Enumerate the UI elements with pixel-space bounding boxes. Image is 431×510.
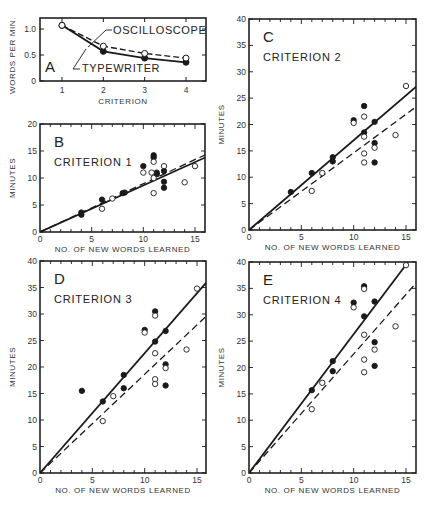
typewriter-point [372,119,377,124]
oscilloscope-point [403,262,408,267]
y-tick-label: 25 [237,336,247,346]
oscilloscope-fit-line [249,283,416,473]
y-tick-label: 0 [31,76,36,86]
typewriter-point [161,179,166,184]
typewriter-point [121,372,126,377]
x-tick-label: 0 [247,475,252,485]
typewriter-point [163,383,168,388]
y-axis-title: MINUTES [217,104,226,144]
typewriter-point [121,386,126,391]
oscilloscope-fit-line [40,315,207,473]
typewriter-point [330,358,335,363]
chart-panel-c: 0510150510152025303540NO. OF NEW WORDS L… [217,14,416,252]
panel-label: D [54,270,65,287]
typewriter-point [99,197,104,202]
oscilloscope-point [393,324,398,329]
oscilloscope-point [393,132,398,137]
oscilloscope-point [163,365,168,370]
oscilloscope-point [194,286,199,291]
x-axis-title: NO. OF NEW WORDS LEARNED [55,245,191,254]
y-tick-label: 10 [237,172,247,182]
oscilloscope-point [351,305,356,310]
oscilloscope-point [192,163,197,168]
oscilloscope-point [142,330,147,335]
y-tick-label: 1.0 [24,24,36,34]
oscilloscope-point [184,347,189,352]
panel-subtitle: CRITERION 3 [54,293,132,305]
y-axis-title: MINUTES [217,347,226,387]
oscilloscope-point [151,190,156,195]
typewriter-point [161,185,166,190]
oscilloscope-point [372,347,377,352]
x-tick-label: 10 [140,475,150,485]
oscilloscope-point [361,332,366,337]
x-tick-label: 0 [38,234,43,244]
y-tick-label: 35 [237,40,247,50]
typewriter-point [288,189,293,194]
oscilloscope-point [141,170,146,175]
oscilloscope-point [361,370,366,375]
x-tick-label: 5 [90,475,95,485]
y-axis-title: MINUTES [8,347,17,387]
oscilloscope-point [309,188,314,193]
oscilloscope-point [372,145,377,150]
x-tick-label: 4 [184,85,189,95]
chart-panel-b: 05101505101520NO. OF NEW WORDS LEARNEDMI… [8,119,205,254]
oscilloscope-marker [100,43,106,49]
x-tick-label: 5 [89,234,94,244]
panel-label: A [45,58,55,75]
panel-subtitle: CRITERION 4 [263,294,341,306]
x-axis-title: CRITERION [98,97,147,106]
y-tick-label: 5 [32,200,37,210]
typewriter-point [122,190,127,195]
panel-label: E [263,271,273,288]
oscilloscope-marker [183,55,189,61]
y-tick-label: 15 [28,146,38,156]
x-axis-title: NO. OF NEW WORDS LEARNED [265,243,401,252]
typewriter-point [141,163,146,168]
x-tick-label: 0 [247,232,252,242]
y-tick-label: 20 [237,363,247,373]
oscilloscope-point [151,175,156,180]
x-tick-label: 3 [142,85,147,95]
x-axis-title: NO. OF NEW WORDS LEARNED [265,486,401,495]
panel-subtitle: CRITERION 1 [54,156,132,168]
plot-frame [40,124,205,232]
oscilloscope-point [111,393,116,398]
oscilloscope-point [320,170,325,175]
y-axis-title: WORDS PER MIN. [8,17,17,94]
typewriter-point [372,160,377,165]
typewriter-point [361,314,366,319]
chart-panel-d: 0510150510152025303540NO. OF NEW WORDS L… [8,256,207,495]
oscilloscope-point [361,286,366,291]
x-tick-label: 0 [38,475,43,485]
y-tick-label: 25 [237,93,247,103]
y-tick-label: 15 [237,389,247,399]
y-tick-label: 35 [28,283,38,293]
y-tick-label: 25 [28,336,38,346]
oscilloscope-point [361,151,366,156]
typewriter-point [152,339,157,344]
typewriter-point [79,210,84,215]
typewriter-point [330,159,335,164]
oscilloscope-point [361,134,366,139]
oscilloscope-point [361,160,366,165]
y-tick-label: 0.5 [24,50,36,60]
y-tick-label: 40 [237,257,247,267]
x-tick-label: 15 [192,475,202,485]
typewriter-point [79,388,84,393]
y-tick-label: 5 [241,199,246,209]
y-tick-label: 5 [241,442,246,452]
oscilloscope-point [152,351,157,356]
oscilloscope-point [351,120,356,125]
oscilloscope-label: OSCILLOSCOPE [113,24,206,36]
y-tick-label: 40 [237,14,247,24]
typewriter-point [372,339,377,344]
oscilloscope-marker [59,22,65,28]
typewriter-point [372,299,377,304]
typewriter-point [372,363,377,368]
typewriter-point [361,103,366,108]
chart-panel-a: 123400.51.0CRITERIONWORDS PER MIN.AOSCIL… [8,17,206,106]
x-tick-label: 15 [401,232,411,242]
chart-panel-e: 0510150510152025303540NO. OF NEW WORDS L… [217,257,416,495]
